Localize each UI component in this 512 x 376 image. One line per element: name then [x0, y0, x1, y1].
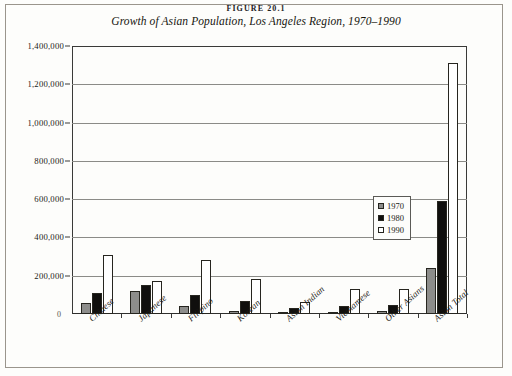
figure-title: Growth of Asian Population, Los Angeles …: [0, 15, 512, 27]
figure-number: FIGURE 20.1: [0, 4, 512, 13]
y-axis-tick-label: 200,000: [34, 271, 64, 281]
legend-label: 1970: [387, 202, 404, 211]
y-axis-tick-mark: [65, 84, 70, 85]
legend-label: 1990: [387, 226, 404, 235]
y-axis-tick-label: 1,400,000: [27, 41, 64, 51]
bar-group: [121, 46, 170, 314]
y-axis-tick-mark: [65, 275, 70, 276]
black-square-icon: [378, 215, 384, 221]
y-axis-tick-label: 600,000: [34, 194, 64, 204]
bar-1980-asian-total: [437, 201, 447, 314]
y-axis-tick-mark: [65, 46, 70, 47]
white-square-icon: [378, 227, 384, 233]
bar-1970-asian-total: [426, 268, 436, 314]
legend-label: 1980: [387, 214, 404, 223]
chart-legend: 197019801990: [373, 196, 411, 240]
figure-header: FIGURE 20.1 Growth of Asian Population, …: [0, 4, 512, 27]
bar-group: [220, 46, 269, 314]
y-axis-tick-mark: [65, 122, 70, 123]
bar-group: [368, 46, 417, 314]
axis-origin-label: 0: [57, 310, 61, 319]
legend-entry: 1990: [378, 224, 404, 236]
y-axis-tick-label: 1,200,000: [27, 79, 64, 89]
legend-entry: 1970: [378, 200, 404, 212]
y-axis-tick-mark: [65, 160, 70, 161]
bar-group: [72, 46, 121, 314]
bar-groups: [72, 46, 467, 314]
x-axis-tick-mark: [467, 314, 468, 318]
y-axis-tick-mark: [65, 237, 70, 238]
bar-group: [270, 46, 319, 314]
x-axis-category-labels: ChineseJapaneseFilipinoKoreanAsian India…: [72, 316, 467, 374]
y-axis: 1,400,0001,200,0001,000,000800,000600,00…: [0, 46, 70, 314]
bar-group: [171, 46, 220, 314]
y-axis-tick-mark: [65, 199, 70, 200]
chart-plot-area: 197019801990: [72, 46, 467, 314]
y-axis-tick-label: 1,000,000: [27, 118, 64, 128]
bar-1990-asian-total: [448, 63, 458, 314]
y-axis-tick-label: 400,000: [34, 232, 64, 242]
bar-group: [418, 46, 467, 314]
bar-1970-japanese: [130, 291, 140, 314]
bar-group: [319, 46, 368, 314]
legend-entry: 1980: [378, 212, 404, 224]
y-axis-tick-label: 800,000: [34, 156, 64, 166]
gray-square-icon: [378, 203, 384, 209]
